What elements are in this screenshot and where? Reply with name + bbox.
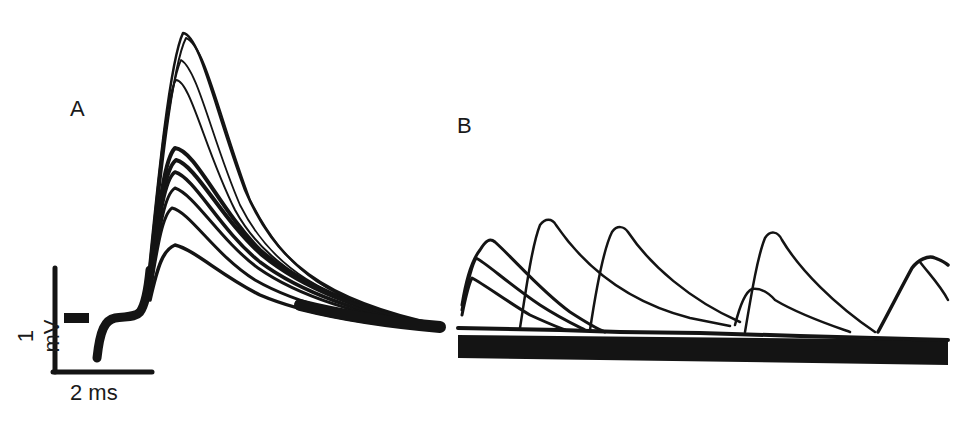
panel-a-traces <box>97 33 440 358</box>
panel-b-traces <box>462 220 948 332</box>
traces-canvas <box>0 0 980 425</box>
baseline-segment-a <box>64 313 89 323</box>
panel-label-a: A <box>70 96 85 122</box>
figure: A B 2 ms 1 mV <box>0 0 980 425</box>
scale-bar-y-label: 1 mV <box>13 311 65 361</box>
panel-label-b: B <box>457 113 472 139</box>
scale-bar-x-label: 2 ms <box>70 380 118 406</box>
